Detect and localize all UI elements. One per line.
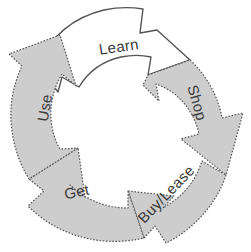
- segment-buy-lease[interactable]: Buy/Lease: [128, 161, 226, 243]
- cycle-diagram: Learn Shop Buy/Lease Get Use: [0, 0, 251, 252]
- segment-shop[interactable]: Shop: [143, 60, 243, 175]
- segment-use-label: Use: [34, 93, 56, 123]
- cycle-diagram-canvas: Learn Shop Buy/Lease Get Use: [0, 0, 251, 252]
